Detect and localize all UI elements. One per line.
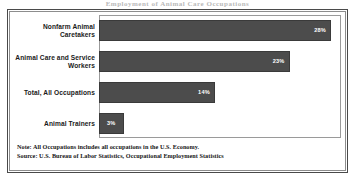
cut-off-title: Employment of Animal Care Occupations — [0, 0, 355, 8]
bar-row: Animal Trainers 3% — [12, 109, 342, 139]
bar-segment — [99, 20, 331, 41]
bar-track: 23% — [99, 47, 342, 77]
bar-track: 14% — [99, 78, 342, 108]
bar-track: 3% — [99, 109, 342, 139]
category-label: Animal Trainers — [12, 109, 95, 139]
category-label: Total, All Occupations — [12, 78, 95, 108]
bar-rows: Nonfarm Animal Caretakers 28% Animal Car… — [12, 15, 342, 138]
bar-track: 28% — [99, 16, 342, 46]
bar-row: Nonfarm Animal Caretakers 28% — [12, 16, 342, 46]
source-line: Source: U.S. Bureau of Labor Statistics,… — [17, 152, 317, 161]
bar-row: Total, All Occupations 14% — [12, 78, 342, 108]
category-label: Animal Care and Service Workers — [12, 47, 95, 77]
bar-value-label: 23% — [273, 51, 285, 72]
note-line: Note: All Occupations includes all occup… — [17, 143, 317, 152]
bar-value-label: 3% — [107, 113, 116, 134]
bar-segment — [99, 51, 290, 72]
bar-row: Animal Care and Service Workers 23% — [12, 47, 342, 77]
bar-value-label: 28% — [314, 20, 326, 41]
bar-value-label: 14% — [198, 82, 210, 103]
chart-figure: Employment of Animal Care Occupations No… — [0, 0, 355, 180]
category-label: Nonfarm Animal Caretakers — [12, 16, 95, 46]
footnotes: Note: All Occupations includes all occup… — [17, 143, 317, 160]
